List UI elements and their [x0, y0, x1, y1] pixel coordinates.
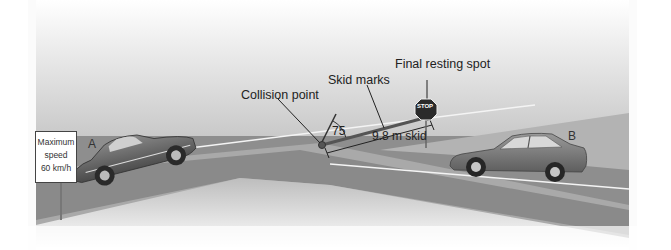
sky: [36, 0, 629, 136]
final-resting-spot-label: Final resting spot: [395, 57, 490, 71]
skid-length-label: 9.8 m skid: [372, 129, 427, 143]
speed-sign-line1: Maximum: [36, 136, 76, 149]
angle-label: 75: [332, 124, 345, 138]
speed-sign-line3: 60 km/h: [36, 162, 76, 175]
speed-sign-line2: speed: [36, 149, 76, 162]
stop-sign-text: STOP: [413, 103, 437, 109]
collision-point-label: Collision point: [241, 88, 319, 102]
car-b-label: B: [568, 129, 576, 143]
skid-marks-label: Skid marks: [328, 73, 390, 87]
car-a-label: A: [88, 137, 96, 151]
bottom-fade: [28, 226, 637, 250]
speed-limit-sign: Maximum speed 60 km/h: [35, 131, 77, 183]
